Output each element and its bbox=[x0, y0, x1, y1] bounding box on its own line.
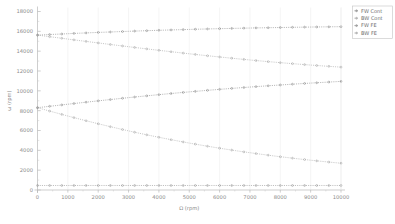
y-tick-label: 16000 bbox=[16, 28, 33, 34]
gridlines-layer bbox=[68, 8, 341, 191]
x-tick-label: 9000 bbox=[304, 194, 317, 200]
x-axis-title: Ω (rpm) bbox=[179, 205, 199, 212]
legend-swatch-marker bbox=[356, 10, 358, 12]
legend-label: FW FE bbox=[361, 22, 376, 28]
x-tick-label: 1000 bbox=[61, 194, 74, 200]
y-tick-label: 8000 bbox=[20, 108, 33, 114]
y-tick-label: 4000 bbox=[20, 147, 33, 153]
y-tick-label: 18000 bbox=[16, 8, 33, 14]
x-tick-label: 8000 bbox=[274, 194, 287, 200]
legend-label: BW FE bbox=[361, 30, 377, 36]
axes-layer bbox=[35, 7, 346, 194]
y-tick-label: 14000 bbox=[16, 48, 33, 54]
y-tick-label: 6000 bbox=[20, 127, 33, 133]
x-tick-label: 10000 bbox=[333, 194, 350, 200]
y-tick-label: 10000 bbox=[16, 88, 33, 94]
x-tick-label: 2000 bbox=[92, 194, 105, 200]
legend-swatch-marker bbox=[356, 25, 358, 27]
chart-legend: FW ContBW ContFW FEBW FE bbox=[353, 6, 393, 39]
y-axis-title: ω (rpm) bbox=[6, 90, 13, 111]
legend-label: FW Cont bbox=[361, 8, 382, 14]
chart-svg: 0200040006000800010000120001400016000180… bbox=[0, 0, 395, 224]
x-tick-label: 6000 bbox=[213, 194, 226, 200]
x-tick-label: 4000 bbox=[152, 194, 165, 200]
y-tick-label: 12000 bbox=[16, 68, 33, 74]
x-tick-label: 3000 bbox=[122, 194, 135, 200]
x-tick-label: 0 bbox=[36, 194, 39, 200]
x-tick-label: 7000 bbox=[243, 194, 256, 200]
x-tick-label: 5000 bbox=[183, 194, 196, 200]
legend-label: BW Cont bbox=[361, 15, 383, 21]
legend-swatch-marker bbox=[356, 17, 358, 19]
y-tick-label: 2000 bbox=[20, 167, 33, 173]
y-tick-label: 0 bbox=[30, 187, 33, 193]
legend-swatch-marker bbox=[356, 32, 358, 34]
chart-figure: 0200040006000800010000120001400016000180… bbox=[0, 0, 395, 224]
